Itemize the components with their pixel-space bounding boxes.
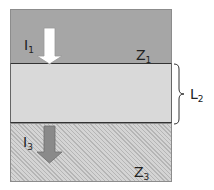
label-z1: Z1	[136, 48, 151, 65]
transmitted-arrow-icon	[35, 125, 65, 165]
label-i3: I3	[23, 135, 33, 152]
label-z3: Z3	[134, 165, 149, 182]
brace-icon	[172, 62, 188, 126]
layer-l2	[10, 64, 172, 123]
label-i1: I1	[24, 38, 34, 55]
incident-arrow-icon	[36, 26, 64, 66]
label-l2: L2	[190, 87, 204, 104]
